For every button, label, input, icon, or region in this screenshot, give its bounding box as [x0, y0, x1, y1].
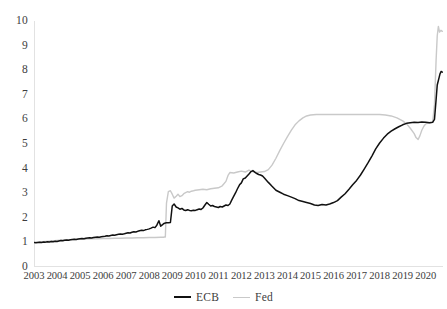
y-tick-label: 8: [2, 64, 28, 76]
y-tick-label: 1: [2, 236, 28, 248]
line-chart: 109876543210 200320042005200620072008200…: [0, 0, 447, 309]
plot-svg: [34, 21, 443, 267]
y-tick-label: 9: [2, 40, 28, 52]
series-line-ecb: [34, 71, 442, 242]
y-tick-label: 2: [2, 212, 28, 224]
legend-label: ECB: [196, 291, 219, 303]
legend-item-fed[interactable]: Fed: [233, 291, 273, 303]
chart-legend: ECBFed: [0, 288, 447, 306]
legend-line-icon: [233, 297, 250, 298]
y-tick-label: 10: [2, 15, 28, 27]
legend-line-icon: [174, 296, 191, 298]
y-tick-label: 4: [2, 163, 28, 175]
series-line-fed: [34, 26, 442, 242]
y-tick-label: 7: [2, 89, 28, 101]
y-tick-label: 6: [2, 113, 28, 125]
y-axis: 109876543210: [0, 0, 34, 288]
x-tick-label: 2020: [411, 270, 441, 282]
plot-area: [34, 21, 443, 267]
legend-item-ecb[interactable]: ECB: [174, 291, 219, 303]
legend-label: Fed: [255, 291, 273, 303]
y-tick-label: 5: [2, 138, 28, 150]
x-axis: 2003200420052006200720082009201020112012…: [34, 270, 443, 286]
y-tick-label: 3: [2, 187, 28, 199]
